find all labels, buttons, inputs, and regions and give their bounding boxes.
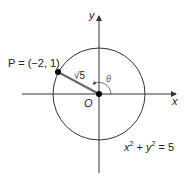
angle-label: θ: [106, 74, 111, 84]
point-p: [55, 69, 61, 75]
point-p-label: P = (−2, 1): [8, 57, 60, 69]
circle-equation: x2 + y2 = 5: [124, 140, 174, 153]
unit-circle-diagram: y x O P = (−2, 1) √5 θ x2 + y2 = 5: [0, 0, 186, 183]
diagram-graphics: [0, 0, 186, 183]
eq-plus: +: [133, 141, 146, 153]
eq-rhs: = 5: [155, 141, 174, 153]
origin-label: O: [84, 97, 93, 109]
origin-point: [96, 91, 102, 97]
radius-label: √5: [74, 70, 85, 81]
x-axis-label: x: [172, 95, 178, 107]
y-axis-label: y: [89, 9, 95, 21]
